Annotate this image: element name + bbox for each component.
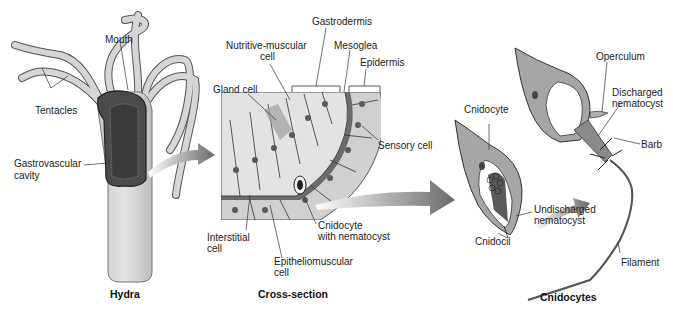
label-cnidocyte-with-nematocyst-2: with nematocyst	[318, 231, 390, 242]
label-barb: Barb	[641, 139, 662, 150]
caption-hydra: Hydra	[110, 288, 140, 300]
label-sensory-cell: Sensory cell	[378, 140, 432, 151]
label-gastrovascular-1: Gastrovascular	[14, 158, 81, 169]
caption-cross-section: Cross-section	[258, 288, 328, 300]
label-gland-cell: Gland cell	[213, 84, 257, 95]
label-gastrovascular-2: cavity	[14, 170, 40, 181]
label-epidermis: Epidermis	[360, 57, 404, 68]
label-cnidocil: Cnidocil	[475, 236, 511, 247]
label-gastrodermis: Gastrodermis	[312, 16, 372, 27]
label-operculum: Operculum	[596, 51, 645, 62]
label-interstitial-1: Interstitial	[207, 232, 250, 243]
label-undischarged-1: Undischarged	[534, 204, 596, 215]
label-interstitial-2: cell	[207, 243, 222, 254]
hydra-illustration	[15, 15, 196, 282]
label-nutritive-1: Nutritive-muscular	[226, 40, 307, 51]
label-undischarged-2: nematocyst	[534, 215, 585, 226]
label-discharged-1: Discharged	[612, 87, 663, 98]
label-mesoglea: Mesoglea	[334, 40, 377, 51]
label-epitheliomuscular-1: Epitheliomuscular	[274, 256, 353, 267]
label-mouth: Mouth	[105, 34, 133, 45]
cnidocytes-illustration	[455, 48, 632, 300]
label-discharged-2: nematocyst	[612, 98, 663, 109]
label-epitheliomuscular-2: cell	[274, 267, 289, 278]
label-tentacles: Tentacles	[35, 105, 77, 116]
label-cnidocyte-with-nematocyst-1: Cnidocyte	[318, 220, 362, 231]
label-nutritive-2: cell	[260, 51, 275, 62]
label-cnidocyte: Cnidocyte	[464, 104, 508, 115]
label-filament: Filament	[621, 257, 659, 268]
caption-cnidocytes: Cnidocytes	[540, 291, 597, 303]
